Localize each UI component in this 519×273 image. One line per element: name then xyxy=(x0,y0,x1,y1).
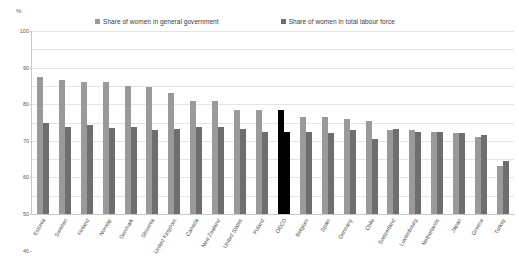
y-axis-unit-label: % xyxy=(16,8,21,14)
bar-group xyxy=(492,31,514,214)
bar-group xyxy=(229,31,251,214)
x-axis-category-label: Denmark xyxy=(118,218,134,240)
plot-area: 0102030405060708090100 xyxy=(31,31,514,215)
bar-total-labour-force xyxy=(240,129,246,214)
legend-label-total-labour-force: Share of women in total labour force xyxy=(289,18,395,25)
x-axis-category-label: Finland xyxy=(77,218,91,236)
bar-group xyxy=(317,31,339,214)
x-axis-category-label: Sweden xyxy=(54,218,69,238)
legend-swatch-general-government xyxy=(95,19,100,24)
bar-group xyxy=(448,31,470,214)
chart-container: % Share of women in general government S… xyxy=(0,0,519,273)
x-axis-label-slot: Germany xyxy=(338,216,360,273)
bar-total-labour-force xyxy=(131,127,137,214)
x-axis-label-slot: Japan xyxy=(447,216,469,273)
legend-swatch-total-labour-force xyxy=(281,19,286,24)
bar-total-labour-force xyxy=(43,123,49,215)
bar-group xyxy=(142,31,164,214)
x-axis-category-label: Canada xyxy=(186,218,200,237)
x-axis-label-slot: Turkey xyxy=(491,216,513,273)
bar-total-labour-force xyxy=(459,133,465,214)
gridline: 0 xyxy=(32,214,514,215)
x-axis-label-slot: Sweden xyxy=(53,216,75,273)
legend-item-general-government: Share of women in general government xyxy=(95,18,219,25)
bar-group xyxy=(383,31,405,214)
x-axis-category-label: Greece xyxy=(471,218,485,236)
bar-total-labour-force xyxy=(284,132,290,214)
bar-total-labour-force xyxy=(109,128,115,214)
bar-group xyxy=(273,31,295,214)
bar-group xyxy=(361,31,383,214)
bar-group xyxy=(339,31,361,214)
x-axis-label-slot: United States xyxy=(228,216,250,273)
x-axis-label-slot: Denmark xyxy=(119,216,141,273)
bar-group xyxy=(54,31,76,214)
bar-group xyxy=(470,31,492,214)
x-axis-category-label: Estonia xyxy=(33,218,47,237)
bar-total-labour-force xyxy=(415,132,421,214)
bar-group xyxy=(120,31,142,214)
chart-legend: Share of women in general government Sha… xyxy=(95,14,435,28)
bar-total-labour-force xyxy=(196,127,202,214)
x-axis-label-slot: OECD xyxy=(272,216,294,273)
x-axis-label-slot: Estonia xyxy=(31,216,53,273)
x-axis-category-label: Japan xyxy=(451,218,463,234)
bars-layer xyxy=(32,31,514,214)
bar-total-labour-force xyxy=(328,133,334,214)
x-axis-category-label: OECD xyxy=(275,218,288,235)
x-axis-category-label: Chile xyxy=(364,218,375,232)
legend-item-total-labour-force: Share of women in total labour force xyxy=(281,18,395,25)
bar-total-labour-force xyxy=(393,129,399,214)
bar-total-labour-force xyxy=(152,130,158,214)
bar-group xyxy=(404,31,426,214)
x-axis-category-label: Germany xyxy=(337,218,353,240)
x-axis-category-label: Turkey xyxy=(494,218,507,235)
bar-total-labour-force xyxy=(372,139,378,214)
bar-total-labour-force xyxy=(218,127,224,214)
bar-group xyxy=(163,31,185,214)
y-axis-tick-label: 60 xyxy=(23,174,29,180)
bar-total-labour-force xyxy=(65,127,71,214)
bar-total-labour-force xyxy=(350,130,356,214)
bar-group xyxy=(295,31,317,214)
x-axis-label-slot: Belgium xyxy=(294,216,316,273)
bar-group xyxy=(32,31,54,214)
bar-total-labour-force xyxy=(306,132,312,214)
x-axis-label-slot: Poland xyxy=(250,216,272,273)
bar-total-labour-force xyxy=(503,161,509,214)
x-axis-category-label: Poland xyxy=(252,218,265,236)
x-axis-label-slot: Norway xyxy=(97,216,119,273)
y-axis-tick-label: 80 xyxy=(23,101,29,107)
x-axis-label-slot: Finland xyxy=(75,216,97,273)
y-axis-tick-label: 90 xyxy=(23,65,29,71)
x-axis-category-label: Belgium xyxy=(295,218,310,238)
x-axis-label-slot: United Kingdom xyxy=(162,216,184,273)
bar-group xyxy=(98,31,120,214)
bar-total-labour-force xyxy=(262,132,268,214)
x-axis-category-label: Norway xyxy=(98,218,112,237)
y-axis-tick-label: 70 xyxy=(23,138,29,144)
bar-group xyxy=(251,31,273,214)
x-axis-category-label: Netherlands xyxy=(421,218,441,246)
y-axis-tick-mark xyxy=(30,214,32,215)
y-axis-tick-label: 40 xyxy=(23,248,29,254)
bar-group xyxy=(76,31,98,214)
bar-total-labour-force xyxy=(437,132,443,214)
y-axis-tick-label: 50 xyxy=(23,211,29,217)
bar-group xyxy=(207,31,229,214)
x-axis-category-label: Switzerland xyxy=(378,218,397,245)
bar-group xyxy=(185,31,207,214)
x-axis-label-slot: Chile xyxy=(360,216,382,273)
bar-total-labour-force xyxy=(481,135,487,214)
bar-total-labour-force xyxy=(87,125,93,214)
legend-label-general-government: Share of women in general government xyxy=(103,18,219,25)
bar-group xyxy=(426,31,448,214)
y-axis-tick-label: 100 xyxy=(20,28,29,34)
x-axis-label-slot: Spain xyxy=(316,216,338,273)
x-axis-label-slot: Netherlands xyxy=(425,216,447,273)
x-axis-category-label: Spain xyxy=(320,218,332,233)
x-axis-category-label: Slovenia xyxy=(141,218,156,239)
bar-total-labour-force xyxy=(174,129,180,214)
x-axis-labels: EstoniaSwedenFinlandNorwayDenmarkSloveni… xyxy=(31,216,513,273)
x-axis-label-slot: Greece xyxy=(469,216,491,273)
